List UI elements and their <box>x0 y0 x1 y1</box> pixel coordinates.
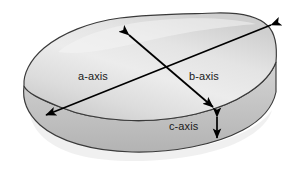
c-axis-label: c-axis <box>169 121 198 132</box>
clast-diagram-svg <box>0 0 303 170</box>
a-axis-label: a-axis <box>78 71 108 82</box>
clast-axes-diagram: a-axis b-axis c-axis <box>0 0 303 170</box>
b-axis-label: b-axis <box>189 71 219 82</box>
